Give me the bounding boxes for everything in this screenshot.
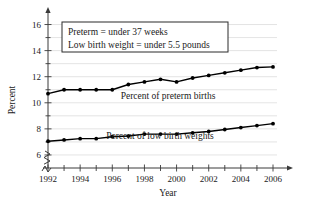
data-point bbox=[223, 71, 227, 75]
y-axis-break-icon bbox=[44, 151, 50, 164]
x-axis-tick-label: 2006 bbox=[264, 174, 283, 184]
series-label-1: Percent of preterm births bbox=[121, 91, 216, 101]
data-point bbox=[255, 124, 259, 128]
x-axis-tick-label: 1994 bbox=[71, 174, 90, 184]
data-point bbox=[78, 88, 82, 92]
data-point bbox=[78, 137, 82, 141]
y-axis-tick-label: 12 bbox=[32, 72, 41, 82]
data-point bbox=[143, 80, 147, 84]
data-point bbox=[271, 122, 275, 126]
y-axis-arrow-icon bbox=[45, 7, 50, 13]
data-point bbox=[94, 137, 98, 141]
x-axis-tick-labels: 19921994199619982000200220042006 bbox=[39, 174, 283, 184]
data-point bbox=[46, 92, 50, 96]
data-point bbox=[175, 80, 179, 84]
data-point bbox=[94, 88, 98, 92]
x-axis-tick-label: 2004 bbox=[232, 174, 251, 184]
data-point bbox=[62, 138, 66, 142]
line-chart: 6810121416 19921994199619982000200220042… bbox=[0, 0, 309, 210]
x-axis-tick-label: 1996 bbox=[103, 174, 122, 184]
x-axis-tick-label: 2002 bbox=[200, 174, 218, 184]
series-label-2: Percent of low birth weights bbox=[106, 131, 214, 141]
definition-line-1: Preterm = under 37 weeks bbox=[68, 27, 168, 37]
x-axis-arrow-icon bbox=[287, 165, 293, 170]
y-axis-tick-labels: 6810121416 bbox=[32, 20, 42, 160]
data-point bbox=[239, 126, 243, 130]
x-axis-tick-label: 1998 bbox=[135, 174, 154, 184]
x-axis-tick-label: 2000 bbox=[168, 174, 187, 184]
y-axis-tick-label: 6 bbox=[37, 150, 42, 160]
definition-note-box: Preterm = under 37 weeksLow birth weight… bbox=[62, 22, 228, 52]
data-point bbox=[271, 65, 275, 69]
data-point bbox=[126, 83, 130, 87]
y-axis-tick-label: 8 bbox=[37, 124, 42, 134]
data-point bbox=[255, 66, 259, 70]
y-axis-title: Percent bbox=[7, 85, 17, 114]
data-point bbox=[239, 68, 243, 72]
x-axis-break-icon bbox=[42, 166, 51, 172]
x-axis-title: Year bbox=[159, 188, 177, 198]
x-axis-tick-label: 1992 bbox=[39, 174, 57, 184]
definition-line-2: Low birth weight = under 5.5 pounds bbox=[68, 40, 210, 50]
data-point bbox=[110, 88, 114, 92]
data-point bbox=[191, 76, 195, 80]
y-axis-tick-label: 10 bbox=[32, 98, 42, 108]
data-point bbox=[62, 88, 66, 92]
data-point bbox=[223, 128, 227, 132]
data-point bbox=[207, 73, 211, 77]
chart-container: 6810121416 19921994199619982000200220042… bbox=[0, 0, 309, 210]
data-point bbox=[46, 139, 50, 143]
y-axis-tick-label: 16 bbox=[32, 20, 42, 30]
data-point bbox=[159, 77, 163, 81]
y-axis-tick-label: 14 bbox=[32, 46, 42, 56]
